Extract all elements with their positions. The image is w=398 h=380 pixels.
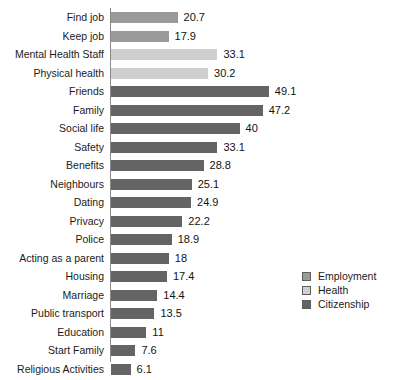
bar-category-label: Mental Health Staff (0, 49, 104, 60)
bar-citizenship (111, 179, 192, 190)
legend-swatch-icon (302, 272, 311, 281)
bar-value-label: 33.1 (223, 142, 244, 153)
bar-value-label: 13.5 (160, 308, 181, 319)
legend-swatch-icon (302, 286, 311, 295)
bar-citizenship (111, 142, 217, 153)
bar-category-label: Friends (0, 86, 104, 97)
bar-citizenship (111, 271, 167, 282)
bar-value-label: 18.9 (178, 234, 199, 245)
bar-category-label: Marriage (0, 290, 104, 301)
bar-value-label: 18 (175, 253, 187, 264)
bar-employment (111, 12, 178, 23)
bar-row: Benefits28.8 (0, 160, 398, 179)
bar-citizenship (111, 253, 169, 264)
bar-category-label: Start Family (0, 345, 104, 356)
bar-value-label: 49.1 (275, 86, 296, 97)
bar-value-label: 40 (246, 123, 258, 134)
bar-citizenship (111, 327, 146, 338)
bar-row: Social life40 (0, 123, 398, 142)
bar-health (111, 68, 208, 79)
bar-citizenship (111, 160, 204, 171)
bar-row: Dating24.9 (0, 197, 398, 216)
bar-row: Find job20.7 (0, 12, 398, 31)
bar-category-label: Find job (0, 12, 104, 23)
bar-citizenship (111, 234, 172, 245)
bar-row: Neighbours25.1 (0, 179, 398, 198)
bar-value-label: 28.8 (210, 160, 231, 171)
bar-value-label: 47.2 (269, 105, 290, 116)
bar-citizenship (111, 308, 154, 319)
bar-citizenship (111, 216, 182, 227)
bar-category-label: Neighbours (0, 179, 104, 190)
bar-row: Physical health30.2 (0, 68, 398, 87)
bar-row: Friends49.1 (0, 86, 398, 105)
bar-category-label: Safety (0, 142, 104, 153)
bar-row: Police18.9 (0, 234, 398, 253)
bar-category-label: Physical health (0, 68, 104, 79)
bar-value-label: 17.9 (175, 31, 196, 42)
bar-value-label: 17.4 (173, 271, 194, 282)
bar-category-label: Privacy (0, 216, 104, 227)
bar-row: Mental Health Staff33.1 (0, 49, 398, 68)
bar-value-label: 25.1 (198, 179, 219, 190)
bar-value-label: 22.2 (188, 216, 209, 227)
bar-category-label: Police (0, 234, 104, 245)
bar-row: Keep job17.9 (0, 31, 398, 50)
bar-row: Safety33.1 (0, 142, 398, 161)
bar-category-label: Benefits (0, 160, 104, 171)
bar-value-label: 24.9 (197, 197, 218, 208)
bar-citizenship (111, 123, 240, 134)
bar-value-label: 20.7 (184, 12, 205, 23)
bar-category-label: Religious Activities (0, 364, 104, 375)
legend-label: Citizenship (318, 298, 369, 311)
bar-value-label: 11 (152, 327, 163, 338)
bar-category-label: Keep job (0, 31, 104, 42)
legend-label: Employment (318, 270, 376, 283)
bar-row: Religious Activities6.1 (0, 364, 398, 380)
bar-citizenship (111, 86, 269, 97)
bar-row: Start Family7.6 (0, 345, 398, 364)
bar-value-label: 30.2 (214, 68, 235, 79)
bar-row: Acting as a parent18 (0, 253, 398, 272)
bar-row: Privacy22.2 (0, 216, 398, 235)
bar-citizenship (111, 105, 263, 116)
legend-swatch-icon (302, 300, 311, 309)
bar-row: Family47.2 (0, 105, 398, 124)
bar-citizenship (111, 364, 131, 375)
bar-category-label: Public transport (0, 308, 104, 319)
bar-employment (111, 31, 169, 42)
bar-category-label: Family (0, 105, 104, 116)
bar-category-label: Acting as a parent (0, 253, 104, 264)
bar-category-label: Housing (0, 271, 104, 282)
legend-label: Health (318, 284, 348, 297)
bar-value-label: 14.4 (163, 290, 184, 301)
bar-row: Education11 (0, 327, 398, 346)
bar-value-label: 33.1 (223, 49, 244, 60)
bar-citizenship (111, 197, 191, 208)
bar-health (111, 49, 217, 60)
horizontal-bar-chart: Find job20.7Keep job17.9Mental Health St… (0, 0, 398, 380)
bar-category-label: Education (0, 327, 104, 338)
bar-citizenship (111, 290, 157, 301)
bar-category-label: Social life (0, 123, 104, 134)
bar-citizenship (111, 345, 135, 356)
bar-value-label: 6.1 (137, 364, 152, 375)
bar-category-label: Dating (0, 197, 104, 208)
bar-value-label: 7.6 (141, 345, 156, 356)
